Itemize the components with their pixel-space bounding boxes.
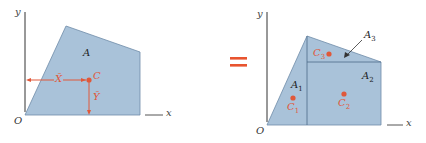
- centroid-c3-label: C3: [313, 47, 325, 61]
- right-y-axis-label: y: [257, 8, 263, 19]
- left-y-axis-label: y: [15, 6, 21, 17]
- ybar-label: Ȳ: [93, 91, 100, 102]
- xbar-label: X̄: [54, 73, 63, 85]
- area-a-label: A: [83, 47, 90, 58]
- centroid-c-label: C: [93, 70, 101, 81]
- right-x-axis-label: x: [406, 117, 412, 128]
- centroid-c2-label: C2: [338, 97, 350, 111]
- area-a2-label: A2: [362, 70, 374, 84]
- area-a1-label: A1: [291, 79, 303, 93]
- left-origin-label: O: [14, 115, 22, 126]
- centroid-c1-label: C1: [287, 101, 299, 115]
- area-a3-label: A3: [364, 29, 376, 43]
- right-origin-label: O: [256, 125, 264, 136]
- left-x-axis-label: x: [166, 107, 172, 118]
